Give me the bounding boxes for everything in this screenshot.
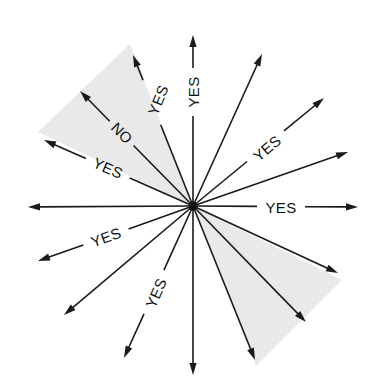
label-yes: YES xyxy=(185,77,202,108)
arrowhead-icon xyxy=(247,348,255,361)
ray-180deg xyxy=(28,203,193,210)
label-yes: YES xyxy=(266,199,297,216)
ray-270deg xyxy=(189,206,196,375)
ray-line xyxy=(48,245,83,257)
ray-66deg xyxy=(193,54,262,206)
center-point xyxy=(189,202,198,211)
arrowhead-icon xyxy=(44,140,56,148)
ray-line xyxy=(284,105,316,131)
ray-line xyxy=(72,206,193,308)
ray-line xyxy=(39,206,193,207)
label-yes: YES xyxy=(142,275,170,310)
ray-diagram: YESYESYESYESNOYESYESYES xyxy=(0,0,373,391)
arrowhead-icon xyxy=(254,54,262,66)
label-yes: YES xyxy=(144,82,171,117)
arrowhead-icon xyxy=(326,265,338,273)
arrowhead-icon xyxy=(28,203,40,210)
ray-line xyxy=(193,64,258,206)
arrowhead-icon xyxy=(38,254,51,261)
ray-line xyxy=(129,314,145,348)
ray-line xyxy=(193,162,247,207)
arrowhead-icon xyxy=(189,363,196,375)
ray-90deg xyxy=(189,35,196,206)
arrowhead-icon xyxy=(189,35,196,47)
arrowhead-icon xyxy=(336,152,349,159)
label-yes: YES xyxy=(250,132,285,165)
starburst-diagram: YESYESYESYESNOYESYESYES xyxy=(0,0,373,391)
label-yes: YES xyxy=(89,224,124,251)
arrowhead-icon xyxy=(346,203,358,210)
ray-220deg xyxy=(64,206,193,315)
arrowhead-icon xyxy=(124,346,132,358)
arrowhead-icon xyxy=(133,55,141,68)
